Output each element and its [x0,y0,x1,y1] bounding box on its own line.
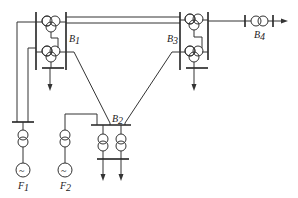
label-b2: B2 [112,113,123,126]
label-b4: B4 [254,29,265,42]
transformer-3w-b1-lower-icon [36,46,66,68]
transformer-2w-f2-icon [60,130,70,147]
transformer-3w-b3-lower-icon [180,46,208,68]
transformer-2w-f1-icon [18,130,28,147]
transformer-2w-b2-right-icon [116,125,126,159]
line-b3-b2 [125,52,180,123]
label-b1: B1 [69,33,80,46]
line-b1-b2 [66,52,110,123]
load-arrow-b3-icon [192,68,197,91]
transformer-2w-b2-left-icon [98,125,108,159]
transformer-2w-b4-icon [251,16,268,26]
load-arrow-b2-right-icon [119,159,124,181]
load-arrow-b1-icon [48,68,53,91]
label-b3: B3 [167,33,178,46]
label-f2: F2 [59,180,71,193]
generator-f2-icon: ~ [58,163,72,177]
label-f1: F1 [17,180,29,193]
power-system-diagram: B1 [0,0,298,198]
generator-branch-f2: ~ F2 [58,114,97,193]
load-arrow-b4-icon [281,19,288,24]
transformer-3w-b1-upper-icon [36,16,66,48]
generator-f1-icon: ~ [16,163,30,177]
load-arrow-b2-left-icon [101,159,106,181]
transformer-3w-b3-upper-icon [180,14,208,48]
line-b3-b4: B4 [208,15,288,42]
line-b1-b3 [66,17,180,23]
generator-branch-f1: ~ F1 [12,22,36,193]
svg-text:~: ~ [19,165,25,176]
svg-text:~: ~ [61,165,67,176]
